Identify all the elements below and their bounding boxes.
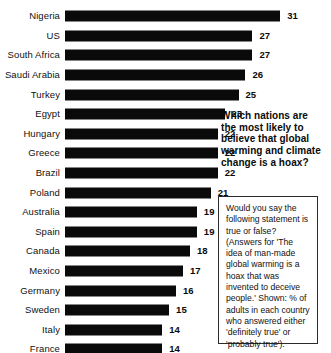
bar-fill bbox=[65, 30, 252, 41]
bar-category-label: South Africa bbox=[0, 50, 60, 60]
bar-category-label: Egypt bbox=[0, 109, 60, 119]
chart-headline: Which nations are the most likely to bel… bbox=[221, 110, 325, 169]
bar-track bbox=[65, 324, 162, 335]
bar-track bbox=[65, 226, 197, 237]
bar-fill bbox=[65, 226, 197, 237]
bar-fill bbox=[65, 266, 183, 277]
bar-track bbox=[65, 70, 245, 81]
bar-category-label: Spain bbox=[0, 227, 60, 237]
bar-category-label: Brazil bbox=[0, 168, 60, 178]
bar-row: Saudi Arabia26 bbox=[0, 65, 331, 85]
bar-category-label: Saudi Arabia bbox=[0, 70, 60, 80]
hoax-belief-bar-chart: Nigeria31US27South Africa27Saudi Arabia2… bbox=[0, 0, 331, 353]
bar-track bbox=[65, 148, 218, 159]
bar-category-label: France bbox=[0, 344, 60, 353]
bar-fill bbox=[65, 128, 218, 139]
chart-note-box: Would you say the following statement is… bbox=[218, 196, 318, 344]
bar-value-label: 25 bbox=[246, 90, 257, 100]
bar-category-label: Germany bbox=[0, 286, 60, 296]
bar-track bbox=[65, 109, 225, 120]
bar-fill bbox=[65, 324, 162, 335]
bar-track bbox=[65, 11, 280, 22]
bar-row: South Africa27 bbox=[0, 46, 331, 66]
bar-category-label: Hungary bbox=[0, 129, 60, 139]
chart-note-text: Would you say the following statement is… bbox=[226, 203, 311, 350]
bar-row: Turkey25 bbox=[0, 85, 331, 105]
bar-fill bbox=[65, 50, 252, 61]
bar-value-label: 18 bbox=[197, 246, 208, 256]
bar-track bbox=[65, 207, 197, 218]
bar-track bbox=[65, 168, 218, 179]
bar-track bbox=[65, 266, 183, 277]
bar-category-label: Canada bbox=[0, 246, 60, 256]
bar-track bbox=[65, 50, 252, 61]
bar-value-label: 27 bbox=[259, 50, 270, 60]
bar-value-label: 14 bbox=[169, 344, 180, 353]
bar-fill bbox=[65, 11, 280, 22]
bar-track bbox=[65, 89, 239, 100]
bar-fill bbox=[65, 148, 218, 159]
bar-value-label: 31 bbox=[287, 11, 298, 21]
bar-fill bbox=[65, 109, 225, 120]
bar-value-label: 16 bbox=[183, 286, 194, 296]
bar-track bbox=[65, 344, 162, 353]
bar-row: Nigeria31 bbox=[0, 7, 331, 27]
bar-track bbox=[65, 305, 169, 316]
bar-track bbox=[65, 246, 190, 257]
bar-value-label: 17 bbox=[190, 266, 201, 276]
bar-category-label: Nigeria bbox=[0, 11, 60, 21]
bar-fill bbox=[65, 207, 197, 218]
bar-value-label: 22 bbox=[225, 168, 236, 178]
bar-fill bbox=[65, 89, 239, 100]
bar-category-label: Sweden bbox=[0, 305, 60, 315]
bar-category-label: Greece bbox=[0, 148, 60, 158]
bar-fill bbox=[65, 168, 218, 179]
bar-value-label: 15 bbox=[176, 305, 187, 315]
bar-value-label: 19 bbox=[204, 207, 215, 217]
bar-value-label: 27 bbox=[259, 31, 270, 41]
bar-track bbox=[65, 285, 176, 296]
bar-category-label: US bbox=[0, 31, 60, 41]
bar-category-label: Mexico bbox=[0, 266, 60, 276]
bar-fill bbox=[65, 344, 162, 353]
bar-category-label: Italy bbox=[0, 325, 60, 335]
bar-category-label: Australia bbox=[0, 207, 60, 217]
bar-fill bbox=[65, 285, 176, 296]
bar-value-label: 19 bbox=[204, 227, 215, 237]
bar-fill bbox=[65, 70, 245, 81]
bar-value-label: 14 bbox=[169, 325, 180, 335]
bar-category-label: Turkey bbox=[0, 90, 60, 100]
bar-row: US27 bbox=[0, 26, 331, 46]
bar-track bbox=[65, 128, 218, 139]
bar-fill bbox=[65, 246, 190, 257]
bar-track bbox=[65, 30, 252, 41]
bar-fill bbox=[65, 187, 211, 198]
bar-category-label: Poland bbox=[0, 188, 60, 198]
bar-track bbox=[65, 187, 211, 198]
bar-value-label: 26 bbox=[252, 70, 263, 80]
bar-fill bbox=[65, 305, 169, 316]
